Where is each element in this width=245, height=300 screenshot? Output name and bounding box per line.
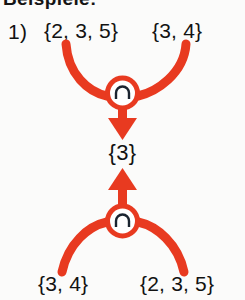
top-left-connector-arc — [66, 44, 107, 96]
example-index-label: 1) — [8, 20, 27, 44]
bottom-left-connector-arc — [62, 222, 107, 272]
diagram-page: Beispiele: 1) {2, 3, 5} {3, 4} {3} {3, 4… — [0, 0, 245, 300]
top-left-set-label: {2, 3, 5} — [44, 19, 118, 43]
bottom-arrow-head — [108, 168, 137, 190]
top-arrow-head — [108, 118, 137, 140]
top-right-connector-arc — [138, 44, 186, 96]
bottom-operator-node-ring — [108, 206, 138, 236]
page-title: Beispiele: — [3, 0, 97, 10]
top-operator-node-ring — [108, 78, 138, 108]
top-intersection-icon — [116, 87, 129, 100]
result-set-label: {3} — [0, 140, 245, 166]
bottom-left-set-label: {3, 4} — [38, 272, 88, 296]
bottom-intersection-icon — [116, 215, 129, 228]
bottom-right-set-label: {2, 3, 5} — [140, 272, 214, 296]
top-right-set-label: {3, 4} — [152, 19, 202, 43]
bottom-right-connector-arc — [138, 222, 184, 272]
